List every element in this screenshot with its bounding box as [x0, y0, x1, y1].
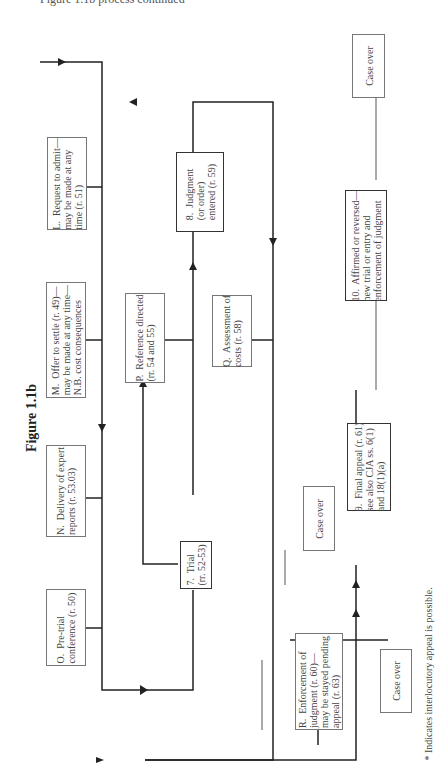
box-request-to-admit-label: L. Request to admit— may be made at any …	[51, 138, 84, 229]
box-final-appeal-label: 9. Final appeal (r. 61) see also CJA ss.…	[353, 423, 386, 512]
box-case-over-top: Case over	[352, 34, 385, 98]
box-case-over-bottom: Case over	[380, 649, 412, 713]
box-offer-to-settle-label: M. Offer to settle (r. 49)— may be made …	[50, 285, 83, 395]
box-enforcement-of-judgment-label: R. Enforcement of judgment (r. 60)— may …	[297, 636, 341, 728]
box-case-over-bottom-label: Case over	[391, 661, 402, 701]
box-final-appeal: 9. Final appeal (r. 61) see also CJA ss.…	[347, 423, 391, 511]
box-request-to-admit: L. Request to admit— may be made at any …	[47, 137, 87, 230]
figure-title: Figure 1.1b	[24, 378, 40, 458]
box-case-over-middle: Case over	[303, 486, 335, 551]
box-assessment-of-costs-label: Q. Assessment of costs (r. 58)	[221, 295, 243, 367]
box-enforcement-of-judgment: R. Enforcement of judgment (r. 60)— may …	[295, 633, 343, 730]
box-expert-reports: N. Delivery of expert reports (r. 53.03)	[46, 445, 86, 537]
box-pre-trial-conference-label: O. Pre-trial conference (r. 50)	[55, 592, 77, 663]
box-case-over-top-label: Case over	[363, 46, 374, 86]
box-expert-reports-label: N. Delivery of expert reports (r. 53.03)	[55, 447, 77, 535]
box-judgment: 8. Judgment (or order) entered (r. 59)	[176, 152, 224, 232]
box-case-over-middle-label: Case over	[314, 499, 325, 539]
box-affirmed-or-reversed: 10. Affirmed or reversed— new trial or e…	[345, 190, 387, 301]
box-offer-to-settle: M. Offer to settle (r. 49)— may be made …	[46, 282, 86, 398]
box-reference-directed: P. Reference directed (rr. 54 and 55)	[125, 293, 165, 383]
box-assessment-of-costs: Q. Assessment of costs (r. 58)	[212, 295, 252, 367]
box-pre-trial-conference: O. Pre-trial conference (r. 50)	[46, 589, 86, 666]
box-trial: 7. Trial (rr. 52-53)	[180, 541, 212, 589]
box-trial-label: 7. Trial (rr. 52-53)	[185, 544, 207, 585]
box-affirmed-or-reversed-label: 10. Affirmed or reversed— new trial or e…	[350, 190, 383, 301]
box-reference-directed-label: P. Reference directed (rr. 54 and 55)	[134, 294, 156, 381]
box-judgment-label: 8. Judgment (or order) entered (r. 59)	[184, 164, 217, 220]
footnote-interlocutory-appeal: * Indicates interlocutory appeal is poss…	[423, 531, 434, 761]
